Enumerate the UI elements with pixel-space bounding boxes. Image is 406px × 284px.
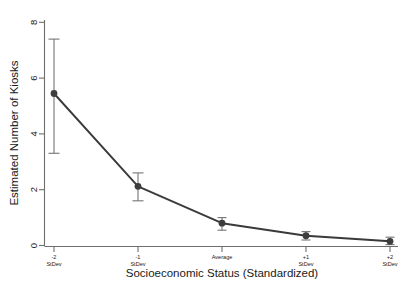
y-tick-label-0: 0 — [28, 243, 39, 248]
data-point-0 — [51, 90, 58, 97]
y-tick-label-8: 8 — [28, 20, 39, 25]
kiosks-vs-ses-line-chart: 0 2 4 6 8 Estimated Number of Kiosks -2 … — [0, 0, 406, 284]
data-point-4 — [387, 238, 394, 245]
x-tick-label-4-top: +2 — [387, 254, 393, 260]
y-tick-label-4: 4 — [28, 131, 39, 136]
y-tick-label-6: 6 — [28, 75, 39, 80]
x-tick-label-1-top: -1 — [136, 254, 141, 260]
x-tick-label-3-top: +1 — [303, 254, 309, 260]
x-axis-title: Socioeconomic Status (Standardized) — [126, 267, 319, 279]
chart-background — [0, 0, 406, 284]
x-tick-label-2-top: Average — [212, 254, 233, 260]
chart-figure: 0 2 4 6 8 Estimated Number of Kiosks -2 … — [0, 0, 406, 284]
x-tick-label-0-bottom: StDev — [46, 261, 61, 267]
data-point-1 — [135, 183, 142, 190]
x-tick-label-0-top: -2 — [52, 254, 57, 260]
data-point-2 — [219, 220, 226, 227]
data-point-3 — [303, 232, 310, 239]
x-tick-label-4-bottom: StDev — [382, 261, 397, 267]
y-axis-title: Estimated Number of Kiosks — [8, 60, 20, 205]
y-tick-label-2: 2 — [28, 187, 39, 192]
